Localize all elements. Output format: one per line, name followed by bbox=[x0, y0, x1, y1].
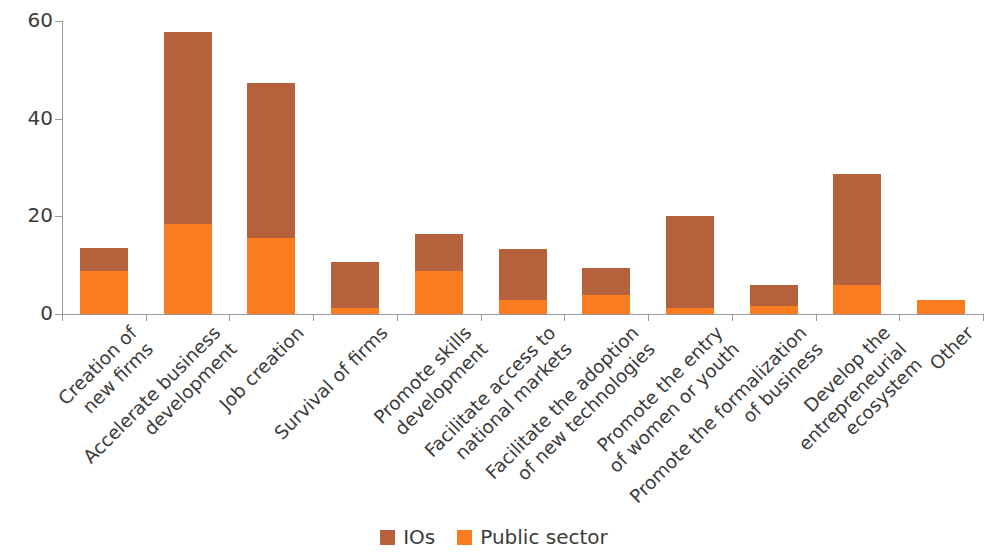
bar-segment-public-sector[interactable] bbox=[499, 300, 547, 314]
plot-area: 0204060 bbox=[62, 10, 983, 315]
bar-stack[interactable] bbox=[499, 249, 547, 314]
bar-segment-public-sector[interactable] bbox=[582, 295, 630, 314]
y-axis-tick-mark bbox=[55, 216, 62, 217]
x-axis-label: Other bbox=[926, 322, 979, 375]
legend-label: Public sector bbox=[480, 525, 608, 549]
bar-stack[interactable] bbox=[331, 262, 379, 314]
legend-label: IOs bbox=[403, 525, 435, 549]
bar-segment-public-sector[interactable] bbox=[750, 306, 798, 314]
bar-segment-public-sector[interactable] bbox=[833, 285, 881, 314]
legend-item[interactable]: Public sector bbox=[457, 525, 608, 549]
bar-stack[interactable] bbox=[582, 268, 630, 314]
y-axis-tick-label: 20 bbox=[28, 203, 53, 227]
bar-segment-ios[interactable] bbox=[666, 216, 714, 308]
x-axis-tick-mark bbox=[983, 314, 984, 321]
bar-stack[interactable] bbox=[666, 216, 714, 314]
bar-segment-ios[interactable] bbox=[415, 234, 463, 271]
y-axis-tick-label: 40 bbox=[28, 106, 53, 130]
bar-stack[interactable] bbox=[750, 285, 798, 314]
legend-swatch bbox=[457, 530, 472, 545]
bar-segment-public-sector[interactable] bbox=[331, 308, 379, 314]
bar-segment-ios[interactable] bbox=[247, 83, 295, 238]
bar-segment-ios[interactable] bbox=[80, 248, 128, 271]
bar-segment-public-sector[interactable] bbox=[415, 271, 463, 314]
x-axis-label: Job creation bbox=[216, 322, 310, 416]
bar-segment-ios[interactable] bbox=[331, 262, 379, 308]
bar-segment-ios[interactable] bbox=[750, 285, 798, 306]
bar-segment-ios[interactable] bbox=[833, 174, 881, 284]
x-axis-labels: Creation of new firmsAccelerate business… bbox=[62, 316, 983, 506]
bar-stack[interactable] bbox=[833, 174, 881, 314]
y-axis-tick-mark bbox=[55, 119, 62, 120]
bar-segment-ios[interactable] bbox=[582, 268, 630, 295]
bar-stack[interactable] bbox=[164, 32, 212, 314]
bar-stack[interactable] bbox=[80, 248, 128, 314]
y-axis-line bbox=[62, 21, 63, 314]
bar-segment-public-sector[interactable] bbox=[164, 224, 212, 314]
bar-segment-ios[interactable] bbox=[164, 32, 212, 223]
bar-stack[interactable] bbox=[917, 300, 965, 314]
stacked-bar-chart: Percent 0204060 Creation of new firmsAcc… bbox=[0, 0, 988, 555]
y-axis-tick-label: 60 bbox=[28, 8, 53, 32]
bar-segment-public-sector[interactable] bbox=[917, 300, 965, 314]
bar-segment-public-sector[interactable] bbox=[80, 271, 128, 314]
bar-stack[interactable] bbox=[247, 83, 295, 314]
bar-segment-public-sector[interactable] bbox=[666, 308, 714, 314]
y-axis-tick-label: 0 bbox=[40, 301, 53, 325]
bar-stack[interactable] bbox=[415, 234, 463, 314]
legend-item[interactable]: IOs bbox=[380, 525, 435, 549]
y-axis-tick-mark bbox=[55, 21, 62, 22]
y-axis-tick-mark bbox=[55, 314, 62, 315]
x-axis-line bbox=[62, 314, 983, 315]
chart-legend: IOsPublic sector bbox=[0, 525, 988, 549]
bar-segment-public-sector[interactable] bbox=[247, 238, 295, 314]
legend-swatch bbox=[380, 530, 395, 545]
bar-segment-ios[interactable] bbox=[499, 249, 547, 300]
